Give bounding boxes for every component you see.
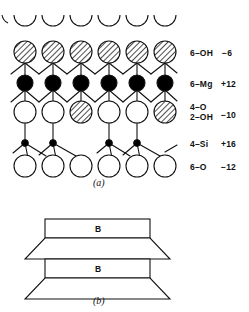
panel-a-caption: (a) bbox=[93, 177, 105, 188]
panel-b-diagram bbox=[0, 197, 249, 312]
oxygen-hydroxyl-row bbox=[14, 101, 176, 123]
label-charge-6-oh: −6 bbox=[222, 48, 232, 58]
label-charge-4-si: +16 bbox=[221, 139, 236, 149]
top-partial-oxygen-row bbox=[2, 15, 176, 26]
magnesium-row bbox=[17, 75, 173, 91]
figure-root: 6–OH −6 6–Mg +12 4–O 2–OH −10 4–Si +16 6… bbox=[0, 0, 249, 312]
bottom-oxygen-row bbox=[14, 155, 176, 177]
silicon-row bbox=[22, 140, 141, 147]
label-species-4-o-2-oh: 4–O 2–OH bbox=[190, 103, 213, 122]
panel-b-unit-2-label: B bbox=[95, 264, 101, 274]
panel-b-unit-1-sheet bbox=[25, 238, 170, 259]
panel-a-diagram bbox=[0, 0, 249, 195]
label-species-6-o: 6–O bbox=[190, 162, 207, 172]
label-species-6-oh: 6–OH bbox=[190, 48, 213, 58]
panel-b-unit-1-label: B bbox=[95, 224, 101, 234]
label-species-6-mg: 6–Mg bbox=[190, 79, 213, 89]
label-charge-4-o-2-oh: −10 bbox=[221, 110, 236, 120]
label-charge-6-o: −12 bbox=[221, 162, 236, 172]
label-charge-6-mg: +12 bbox=[221, 79, 236, 89]
hydroxyl-row bbox=[14, 41, 176, 63]
panel-b-caption: (b) bbox=[93, 295, 105, 306]
label-species-4-si: 4–Si bbox=[190, 139, 208, 149]
